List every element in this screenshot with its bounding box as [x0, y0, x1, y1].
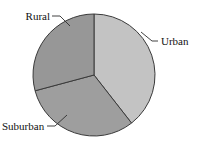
pie-chart-figure: Rural Urban Suburban — [0, 0, 201, 143]
pie-label-rural: Rural — [26, 10, 50, 22]
pie-label-suburban: Suburban — [2, 120, 45, 132]
pie-label-urban: Urban — [161, 35, 189, 47]
pie-chart-svg: Rural Urban Suburban — [0, 0, 201, 143]
